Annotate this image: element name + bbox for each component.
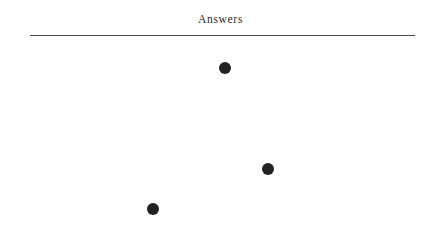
data-point — [219, 62, 231, 74]
title-divider — [30, 35, 415, 36]
scatter-plot — [0, 38, 441, 227]
data-point — [147, 203, 159, 215]
data-point — [262, 163, 274, 175]
answers-page: Answers — [0, 0, 441, 227]
page-title: Answers — [0, 13, 441, 25]
